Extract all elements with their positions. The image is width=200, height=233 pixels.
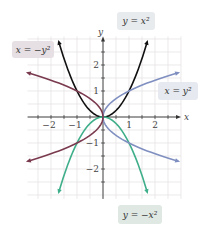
label-x-eq-y2: x = y² bbox=[158, 82, 198, 100]
x-tick-label: −2 bbox=[42, 120, 55, 130]
arrowhead-icon bbox=[144, 189, 148, 194]
x-axis-arrow-icon bbox=[176, 115, 181, 119]
label-y-eq-x2: y = x² bbox=[117, 12, 155, 30]
x-tick-label: 2 bbox=[152, 120, 158, 130]
arrowhead-icon bbox=[175, 158, 180, 162]
y-tick-label: 1 bbox=[93, 86, 99, 96]
label-x-eq-neg-y2-text: x = −y² bbox=[16, 45, 51, 55]
arrowhead-icon bbox=[26, 72, 31, 76]
arrowhead-icon bbox=[58, 40, 62, 45]
label-y-eq-neg-x2-text: y = −x² bbox=[123, 210, 158, 220]
label-y-eq-x2-text: y = x² bbox=[122, 16, 149, 26]
x-axis-label: x bbox=[184, 112, 189, 122]
y-tick-label: −2 bbox=[86, 164, 99, 174]
arrowhead-icon bbox=[175, 72, 180, 76]
arrowhead-icon bbox=[58, 189, 62, 194]
arrowhead-icon bbox=[144, 40, 148, 45]
y-tick-label: −1 bbox=[86, 138, 99, 148]
label-x-eq-y2-text: x = y² bbox=[164, 86, 191, 96]
graph-canvas: −2−11221−1−2xy bbox=[0, 0, 200, 233]
x-tick-label: 1 bbox=[126, 120, 132, 130]
label-y-eq-neg-x2: y = −x² bbox=[118, 205, 162, 224]
y-tick-label: 2 bbox=[93, 60, 99, 70]
label-x-eq-neg-y2: x = −y² bbox=[12, 41, 54, 58]
x-tick-label: −1 bbox=[68, 120, 81, 130]
arrowhead-icon bbox=[26, 158, 31, 162]
y-axis-label: y bbox=[97, 27, 104, 37]
